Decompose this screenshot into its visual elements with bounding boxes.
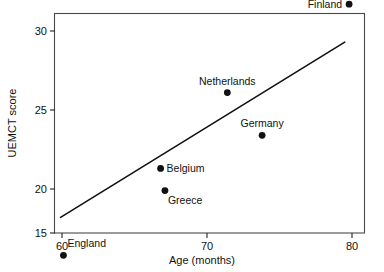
data-point-label: Belgium xyxy=(167,162,205,174)
data-point-marker xyxy=(259,132,266,139)
data-point-marker xyxy=(157,165,164,172)
x-axis-title: Age (months) xyxy=(169,254,235,266)
y-tick-label: 20 xyxy=(35,183,47,195)
y-axis-title: UEMCT score xyxy=(6,89,18,158)
data-point-label: Netherlands xyxy=(199,75,256,87)
data-point-marker xyxy=(60,252,67,259)
y-tick-label: 30 xyxy=(35,25,47,37)
scatter-chart: 607080 15202530 EnglandBelgiumGreeceNeth… xyxy=(0,0,384,272)
data-point-marker xyxy=(346,1,353,8)
data-point-marker xyxy=(224,89,231,96)
data-point-label: Finland xyxy=(308,0,343,10)
y-tick-label: 15 xyxy=(35,227,47,239)
x-tick-label: 70 xyxy=(201,240,213,252)
data-point-label: England xyxy=(67,237,106,249)
y-tick-label: 25 xyxy=(35,104,47,116)
x-tick-label: 80 xyxy=(346,240,358,252)
data-point-label: Germany xyxy=(241,117,285,129)
chart-canvas: 607080 15202530 EnglandBelgiumGreeceNeth… xyxy=(0,0,384,272)
x-tick-label: 60 xyxy=(56,240,68,252)
data-point-label: Greece xyxy=(168,194,203,206)
